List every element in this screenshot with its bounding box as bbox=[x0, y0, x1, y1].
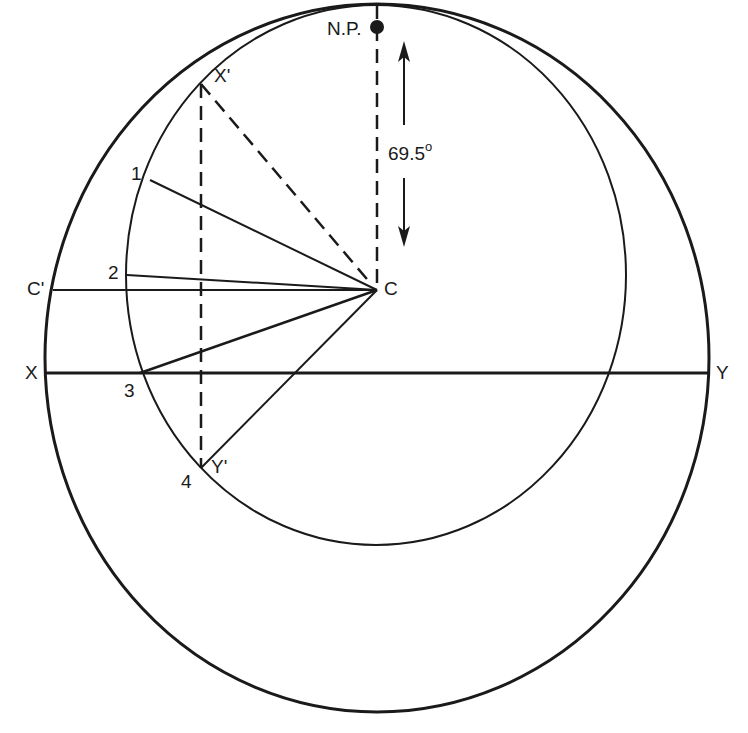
line-4-c bbox=[201, 290, 377, 468]
label-y: Y bbox=[716, 363, 729, 382]
label-point-1: 1 bbox=[131, 164, 142, 183]
outer-circle bbox=[45, 4, 709, 712]
label-x-prime: X' bbox=[214, 66, 230, 85]
label-point-2: 2 bbox=[108, 263, 119, 282]
label-point-4: 4 bbox=[181, 472, 192, 491]
label-x: X bbox=[25, 363, 38, 382]
label-angle: 69.5o bbox=[388, 142, 432, 163]
label-north-pole: N.P. bbox=[327, 19, 362, 38]
projection-diagram bbox=[0, 0, 748, 733]
label-point-3: 3 bbox=[124, 381, 135, 400]
line-2-c bbox=[127, 275, 377, 290]
label-c-prime: C' bbox=[27, 279, 44, 298]
line-3-c bbox=[140, 290, 377, 373]
label-center-c: C bbox=[384, 279, 398, 298]
xprime-c-dashed-line bbox=[201, 84, 372, 285]
north-pole-dot bbox=[370, 20, 384, 34]
line-1-c bbox=[150, 180, 377, 290]
degree-symbol: o bbox=[425, 139, 432, 154]
label-y-prime: Y' bbox=[211, 457, 227, 476]
angle-value: 69.5 bbox=[388, 143, 425, 164]
